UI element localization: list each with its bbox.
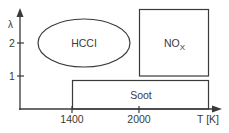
nox-label: NOX [164, 37, 186, 52]
y-axis-arrow-icon [17, 8, 24, 17]
combustion-regime-diagram: λ 2 1 1400 2000 T [K] HCCI NOX Soot [0, 0, 229, 133]
soot-label: Soot [130, 89, 152, 101]
y-tick-label-2: 2 [9, 37, 15, 49]
nox-label-main: NO [164, 37, 180, 49]
nox-label-subscript: X [180, 43, 186, 52]
x-axis-label: T [K] [197, 113, 219, 125]
hcci-label: HCCI [71, 37, 97, 49]
y-tick-label-1: 1 [9, 70, 15, 82]
x-tick-label-1400: 1400 [60, 113, 84, 125]
x-axis-arrow-icon [212, 106, 222, 113]
x-tick-label-2000: 2000 [127, 113, 151, 125]
y-axis-label: λ [8, 19, 13, 30]
